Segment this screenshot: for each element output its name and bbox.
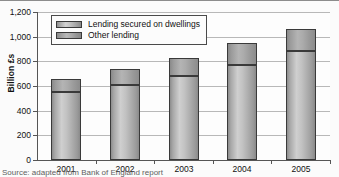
y-axis-tick-label: 1,000 — [10, 33, 31, 42]
bar-segment-other-2004 — [227, 43, 257, 65]
source-note: Source: adapted from Bank of England rep… — [2, 169, 339, 177]
x-axis-tick — [271, 160, 272, 164]
x-axis-tick — [154, 160, 155, 164]
bar-segment-other-2005 — [286, 29, 316, 52]
legend-label-secured: Lending secured on dwellings — [88, 20, 200, 29]
bar-segment-secured-2001 — [51, 92, 81, 160]
legend-item-other: Other lending — [56, 30, 200, 40]
chart-legend: Lending secured on dwellings Other lendi… — [51, 15, 207, 45]
x-axis-tick — [96, 160, 97, 164]
y-axis-tick-label: 200 — [17, 131, 31, 140]
legend-swatch-other-icon — [56, 32, 82, 39]
legend-item-secured: Lending secured on dwellings — [56, 20, 200, 30]
bar-segment-secured-2002 — [110, 85, 140, 160]
bar-stack-2005 — [286, 12, 316, 160]
y-axis-tick-label: 0 — [26, 156, 31, 165]
y-axis-line — [37, 12, 38, 161]
bar-segment-other-2002 — [110, 69, 140, 86]
y-axis-tick-label: 800 — [17, 57, 31, 66]
chart-figure: Billion £s 02004006008001,0001,200 20012… — [0, 0, 339, 177]
bar-segment-secured-2004 — [227, 65, 257, 160]
plot-area: 02004006008001,0001,200 2001200220032004… — [37, 12, 330, 160]
legend-swatch-secured-icon — [56, 21, 82, 28]
bar-segment-other-2001 — [51, 79, 81, 93]
legend-label-other: Other lending — [88, 31, 139, 40]
y-axis-tick-label: 400 — [17, 107, 31, 116]
top-divider-rule — [0, 0, 339, 1]
y-axis-tick-label: 600 — [17, 82, 31, 91]
y-axis-tick-label: 1,200 — [10, 8, 31, 17]
x-axis-line — [37, 160, 331, 161]
bar-segment-secured-2003 — [169, 76, 199, 160]
bar-segment-secured-2005 — [286, 51, 316, 160]
y-axis-title: Billion £s — [6, 38, 16, 108]
bar-stack-2004 — [227, 12, 257, 160]
x-axis-tick — [330, 160, 331, 164]
bar-segment-other-2003 — [169, 58, 199, 77]
x-axis-tick — [213, 160, 214, 164]
